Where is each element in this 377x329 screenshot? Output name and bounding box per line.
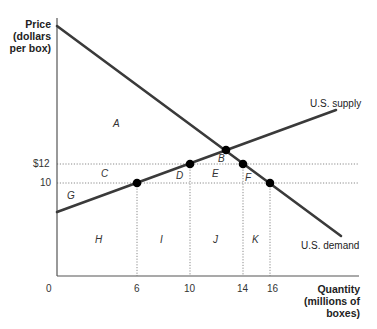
price-axis-title-line2: (dollars: [0, 30, 51, 42]
axes: [57, 18, 359, 276]
quantity-axis-title-line1: Quantity: [280, 283, 360, 295]
region-e-label: E: [212, 168, 219, 179]
region-b-label: B: [218, 153, 225, 164]
x-tick-10: 10: [184, 283, 195, 294]
x-tick-14: 14: [237, 283, 248, 294]
x-tick-0: 0: [46, 283, 52, 294]
region-c-label: C: [101, 168, 108, 179]
region-a-label: A: [113, 118, 120, 129]
price-axis-title-line3: per box): [0, 42, 51, 54]
price-axis-title: Price (dollars per box): [0, 18, 51, 54]
point-q14-p12: [239, 160, 248, 169]
region-f-label: F: [245, 172, 251, 183]
y-tick-12: $12: [33, 158, 50, 169]
point-q6-p10: [133, 179, 142, 188]
quantity-axis-title: Quantity (millions of boxes): [280, 283, 360, 319]
supply-curve: [57, 110, 336, 212]
reference-lines: [57, 164, 358, 276]
point-q16-p10: [266, 179, 275, 188]
supply-curve-label: U.S. supply: [310, 98, 361, 109]
region-j-label: J: [213, 234, 218, 245]
x-tick-6: 6: [134, 283, 140, 294]
y-tick-10: 10: [40, 177, 51, 188]
demand-curve: [57, 26, 341, 236]
region-k-label: K: [252, 234, 259, 245]
region-i-label: I: [160, 234, 163, 245]
x-tick-16: 16: [267, 283, 278, 294]
region-g-label: G: [67, 190, 75, 201]
demand-curve-label: U.S. demand: [301, 240, 359, 251]
supply-demand-diagram: [0, 0, 377, 329]
quantity-axis-title-line3: boxes): [280, 307, 360, 319]
point-q10-p12: [186, 160, 195, 169]
price-axis-title-line1: Price: [0, 18, 51, 30]
marked-points: [133, 146, 275, 188]
region-h-label: H: [95, 234, 102, 245]
quantity-axis-title-line2: (millions of: [280, 295, 360, 307]
region-d-label: D: [176, 170, 183, 181]
